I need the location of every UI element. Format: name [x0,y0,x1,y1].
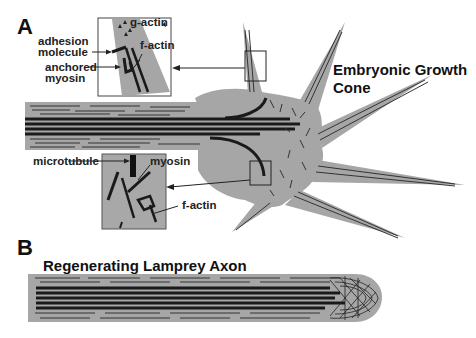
label-anchored-line2: myosin [45,73,85,85]
lamprey-axon-figure [28,274,382,322]
label-f-actin-top: f-actin [140,40,175,52]
panel-label-b: B [17,237,33,259]
panel-label-a: A [17,16,33,38]
growth-cone-title-line1: Embryonic Growth [333,62,467,77]
lamprey-axon-title: Regenerating Lamprey Axon [43,258,247,273]
label-g-actin: g-actin [130,17,168,29]
label-adhesion-line2: molecule [38,47,88,59]
growth-cone-figure [25,18,465,238]
growth-cone-title-line2: Cone [333,80,371,95]
label-f-actin-bottom: f-actin [182,200,217,212]
label-microtubule: microtubule [33,156,99,168]
label-myosin: myosin [150,156,190,168]
inset-top [88,18,171,96]
